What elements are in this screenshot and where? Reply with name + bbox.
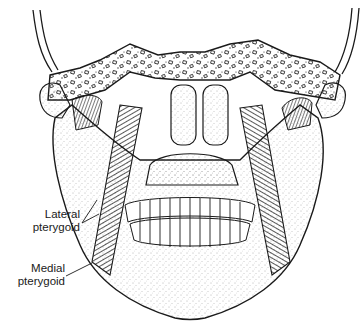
- skull-wall-right: [335, 8, 359, 74]
- teeth: [125, 198, 255, 248]
- skull-wall-left: [33, 10, 58, 72]
- palate: [146, 154, 238, 185]
- anatomy-figure: Lateral pterygoid Medial pterygoid: [0, 0, 363, 328]
- label-lateral-pterygoid: Lateral pterygoid: [22, 208, 80, 234]
- label-medial-pterygoid: Medial pterygoid: [7, 262, 65, 288]
- nasal-chambers: [171, 85, 228, 145]
